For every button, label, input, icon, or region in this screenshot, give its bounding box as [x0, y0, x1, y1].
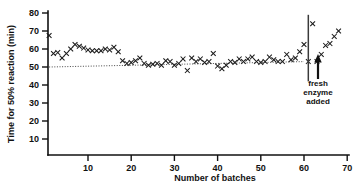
data-point-marker	[64, 51, 69, 56]
data-points-group	[47, 21, 341, 73]
x-tick-label: 40	[213, 163, 223, 173]
x-tick-label: 60	[299, 163, 309, 173]
y-tick-label: 80	[29, 8, 39, 18]
annotation-arrow-group	[314, 54, 321, 79]
x-tick-label: 50	[256, 163, 266, 173]
y-tick-label: 40	[29, 80, 39, 90]
data-point-marker	[159, 63, 164, 68]
y-tick-label: 50	[29, 62, 39, 72]
data-point-marker	[155, 61, 160, 66]
data-point-marker	[86, 48, 91, 53]
data-point-marker	[137, 56, 142, 61]
y-tick-label: 60	[29, 44, 39, 54]
data-point-marker	[263, 59, 268, 64]
data-point-marker	[284, 52, 289, 57]
data-point-marker	[51, 51, 56, 56]
data-point-marker	[194, 59, 199, 64]
data-point-marker	[150, 62, 155, 67]
data-point-marker	[107, 48, 112, 53]
y-axis-ticks: 1020304050607080	[29, 8, 48, 144]
data-point-marker	[73, 42, 78, 47]
y-tick-label: 30	[29, 98, 39, 108]
data-point-marker	[336, 29, 341, 34]
x-axis-ticks: 10203040506070	[83, 155, 352, 173]
x-tick-label: 70	[342, 163, 352, 173]
data-point-marker	[94, 48, 99, 53]
data-point-marker	[245, 57, 250, 62]
y-axis-title: Time for 50% reaction (min)	[6, 25, 16, 143]
chart-figure: 1020304050607080 10203040506070 Time for…	[0, 0, 360, 192]
data-point-marker	[146, 63, 151, 68]
y-tick-label: 20	[29, 116, 39, 126]
y-tick-label: 70	[29, 26, 39, 36]
data-point-marker	[129, 60, 134, 65]
data-point-marker	[81, 46, 86, 51]
data-point-marker	[202, 60, 207, 65]
data-point-marker	[211, 51, 216, 56]
data-point-marker	[228, 59, 233, 64]
scatter-plot-canvas: 1020304050607080 10203040506070 Time for…	[0, 0, 360, 192]
data-point-marker	[319, 52, 324, 57]
y-tick-label: 10	[29, 134, 39, 144]
annotation-line-enzyme: enzyme	[303, 88, 333, 97]
data-point-marker	[90, 48, 95, 53]
data-point-marker	[172, 63, 177, 68]
data-point-marker	[250, 55, 255, 60]
data-point-marker	[120, 58, 125, 63]
data-point-marker	[310, 21, 315, 26]
data-point-marker	[280, 59, 285, 64]
x-tick-label: 30	[169, 163, 179, 173]
data-point-marker	[237, 57, 242, 62]
x-axis-title: Number of batches	[174, 173, 256, 183]
data-point-marker	[133, 58, 138, 63]
data-point-marker	[124, 61, 129, 66]
data-point-marker	[267, 55, 272, 60]
data-point-marker	[142, 61, 147, 66]
annotation-line-added: added	[306, 97, 330, 106]
data-point-marker	[99, 48, 104, 53]
data-point-marker	[207, 59, 212, 64]
data-point-marker	[181, 57, 186, 62]
x-tick-label: 20	[126, 163, 136, 173]
data-point-marker	[254, 59, 259, 64]
data-point-marker	[68, 47, 73, 52]
data-point-marker	[163, 58, 168, 63]
data-point-marker	[297, 49, 302, 54]
data-point-marker	[77, 44, 82, 49]
axes-group	[48, 11, 349, 155]
data-point-marker	[241, 59, 246, 64]
data-point-marker	[112, 45, 117, 50]
x-tick-label: 10	[83, 163, 93, 173]
data-point-marker	[116, 49, 121, 54]
data-point-marker	[55, 50, 60, 55]
data-point-marker	[103, 47, 108, 52]
data-point-marker	[332, 34, 337, 39]
data-point-marker	[293, 56, 298, 61]
data-point-marker	[176, 61, 181, 66]
data-point-marker	[271, 57, 276, 62]
data-point-marker	[323, 43, 328, 48]
data-point-marker	[276, 59, 281, 64]
data-point-marker	[60, 56, 65, 61]
data-point-marker	[215, 64, 220, 69]
data-point-marker	[302, 42, 307, 47]
annotation-line-fresh: fresh	[308, 79, 328, 88]
data-point-marker	[328, 41, 333, 46]
data-point-marker	[185, 68, 190, 73]
